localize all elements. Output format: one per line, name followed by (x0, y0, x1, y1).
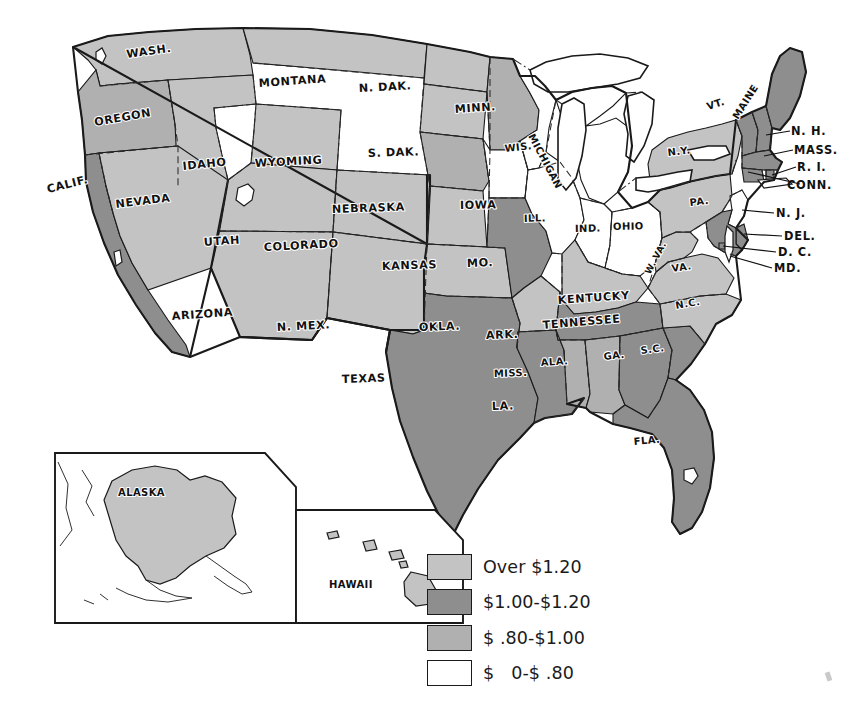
label-TX: TEXAS (342, 371, 386, 386)
label-AR: ARK. (486, 328, 519, 342)
callout-NJ: N. J. (776, 206, 806, 220)
state-OK[interactable] (424, 244, 512, 298)
label-KS: KANSAS (382, 258, 437, 273)
label-MO: MO. (467, 256, 494, 270)
callout-CONN: CONN. (787, 178, 832, 192)
label-PA: PA. (689, 195, 710, 208)
label-IA: IOWA (460, 198, 497, 212)
legend-item-100-120[interactable]: $1.00-$1.20 (427, 585, 591, 621)
lake-huron (624, 92, 654, 162)
label-HI: HAWAII (329, 579, 373, 590)
label-SD: S. DAK. (368, 145, 420, 160)
map-legend: Over $1.20 $1.00-$1.20 $ .80-$1.00 $ 0-$… (427, 549, 591, 691)
label-IN: IND. (575, 223, 601, 234)
map-figure: WASH. OREGON CALIF. IDAHO NEVADA MONTANA… (0, 0, 857, 714)
callout-MASS: MASS. (794, 143, 838, 157)
label-OK: OKLA. (419, 320, 461, 334)
alaska-inset[interactable]: ALASKA (55, 453, 296, 623)
callout-NH: N. H. (791, 124, 826, 138)
label-AZ: ARIZONA (171, 306, 233, 323)
label-IL: ILL. (524, 212, 546, 224)
label-FL: FLA. (633, 434, 660, 447)
legend-label-over-120: Over $1.20 (483, 557, 582, 577)
label-NE: NEBRASKA (332, 200, 405, 216)
legend-label-80-100: $ .80-$1.00 (483, 628, 585, 648)
legend-label-100-120: $1.00-$1.20 (483, 592, 591, 612)
leader-DEL (744, 234, 782, 236)
label-CA: CALIF. (46, 173, 90, 196)
legend-swatch-80-100 (427, 625, 472, 651)
label-VT: VT. (705, 96, 726, 112)
callout-MD: MD. (774, 261, 801, 275)
legend-item-over-120[interactable]: Over $1.20 (427, 549, 591, 585)
label-MT: MONTANA (258, 72, 326, 90)
label-GA: GA. (603, 349, 625, 362)
label-MS: MISS. (494, 367, 528, 379)
legend-label-0-80: $ 0-$ .80 (483, 663, 574, 683)
legend-item-80-100[interactable]: $ .80-$1.00 (427, 620, 591, 656)
label-ND: N. DAK. (358, 79, 411, 95)
leader-NJ (742, 210, 774, 213)
legend-swatch-0-80 (427, 660, 472, 686)
legend-swatch-100-120 (427, 589, 472, 615)
callout-DC: D. C. (778, 245, 812, 259)
label-AK: ALASKA (118, 487, 165, 498)
callout-DEL: DEL. (784, 229, 816, 243)
label-AL: ALA. (540, 355, 568, 368)
label-OH: OHIO (613, 220, 644, 232)
state-KS[interactable] (427, 186, 487, 247)
lake-superior (530, 54, 648, 92)
state-ME[interactable] (766, 48, 806, 130)
label-NM: N. MEX. (276, 318, 330, 334)
callout-RI: R. I. (797, 160, 826, 174)
state-NM[interactable] (327, 232, 427, 334)
legend-item-0-80[interactable]: $ 0-$ .80 (427, 656, 591, 692)
legend-swatch-over-120 (427, 554, 472, 580)
label-UT: UTAH (203, 233, 240, 248)
label-LA: LA. (492, 399, 514, 413)
